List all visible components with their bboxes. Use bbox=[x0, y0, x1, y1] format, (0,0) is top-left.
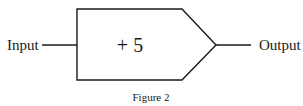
figure-caption: Figure 2 bbox=[133, 91, 170, 103]
input-label: Input bbox=[7, 37, 39, 53]
operation-label: + 5 bbox=[117, 34, 143, 56]
output-label: Output bbox=[259, 37, 302, 53]
function-machine-box bbox=[77, 9, 216, 80]
function-machine-diagram: Input + 5 Output Figure 2 bbox=[0, 0, 303, 106]
